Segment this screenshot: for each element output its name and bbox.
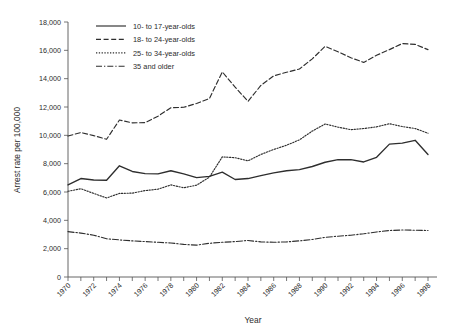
series-line-2 [68,124,428,198]
x-tick-label: 1982 [209,281,227,299]
x-tick-label: 1988 [286,281,304,299]
series-line-1 [68,44,428,140]
legend-label-3: 35 and older [133,62,175,71]
x-tick-label: 1976 [132,281,150,299]
chart-legend: 10- to 17-year-olds18- to 24-year-olds25… [96,22,195,71]
arrest-rate-line-chart: 02,0004,0006,0008,00010,00012,00014,0001… [0,0,451,331]
x-tick-label: 1984 [235,281,253,299]
series-line-3 [68,230,428,245]
x-tick-label: 1992 [338,281,356,299]
legend-label-2: 25- to 34-year-olds [133,49,195,58]
x-tick-label: 1978 [158,281,176,299]
y-tick-label: 10,000 [39,131,61,140]
legend-label-1: 18- to 24-year-olds [133,35,195,44]
y-axis-title: Arrest rate per 100,000 [12,107,22,193]
x-tick-label: 1980 [183,281,201,299]
series-line-0 [68,140,428,185]
y-axis: 02,0004,0006,0008,00010,00012,00014,0001… [12,18,68,282]
y-tick-label: 16,000 [39,46,61,55]
x-tick-label: 1998 [415,281,433,299]
x-axis-title: Year [245,315,262,325]
x-tick-group: 1970197219741976197819801982198419861988… [55,277,433,299]
y-tick-label: 12,000 [39,103,61,112]
x-tick-label: 1996 [389,281,407,299]
y-tick-label: 2,000 [43,244,61,253]
x-tick-label: 1990 [312,281,330,299]
x-tick-label: 1974 [106,281,124,299]
y-tick-label: 4,000 [43,216,61,225]
data-series-group [68,44,428,246]
x-tick-label: 1994 [363,281,381,299]
x-axis: 1970197219741976197819801982198419861988… [55,277,437,325]
chart-canvas: 02,0004,0006,0008,00010,00012,00014,0001… [0,0,451,331]
y-tick-label: 14,000 [39,74,61,83]
y-tick-label: 0 [57,273,61,282]
y-tick-label: 6,000 [43,188,61,197]
y-tick-group: 02,0004,0006,0008,00010,00012,00014,0001… [39,18,68,282]
x-tick-label: 1970 [55,281,73,299]
x-tick-label: 1986 [260,281,278,299]
y-tick-label: 8,000 [43,159,61,168]
y-tick-label: 18,000 [39,18,61,27]
legend-label-0: 10- to 17-year-olds [133,22,195,31]
x-tick-label: 1972 [80,281,98,299]
